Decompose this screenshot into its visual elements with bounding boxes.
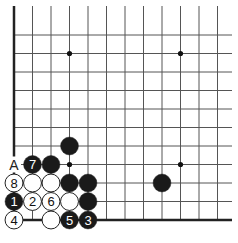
white-stone: 2 [24, 193, 42, 211]
move-number: 6 [47, 194, 54, 209]
move-number: 1 [10, 194, 17, 209]
black-stone: 3 [79, 211, 97, 229]
move-number: 2 [29, 194, 36, 209]
move-number: 4 [10, 213, 17, 228]
black-stone: 1 [5, 193, 23, 211]
white-stone: 8 [5, 174, 23, 192]
move-number: 5 [66, 213, 73, 228]
go-board: 45312687 A [0, 0, 238, 243]
black-stone: 5 [61, 211, 79, 229]
white-stone [42, 211, 60, 229]
black-stone [79, 174, 97, 192]
white-stone [24, 174, 42, 192]
move-number: 7 [29, 157, 36, 172]
star-point [67, 51, 72, 56]
point-labels: A [7, 157, 21, 173]
black-stone [61, 174, 79, 192]
black-stone [61, 137, 79, 155]
move-number: 8 [10, 176, 17, 191]
move-number: 3 [84, 213, 91, 228]
white-stone: 6 [42, 193, 60, 211]
star-point [178, 162, 183, 167]
black-stone [42, 156, 60, 174]
black-stone [153, 174, 171, 192]
black-stone: 7 [24, 156, 42, 174]
black-stone [79, 193, 97, 211]
white-stone [42, 174, 60, 192]
point-label: A [9, 157, 19, 173]
white-stone [61, 193, 79, 211]
star-point [178, 51, 183, 56]
star-point [67, 162, 72, 167]
white-stone: 4 [5, 211, 23, 229]
